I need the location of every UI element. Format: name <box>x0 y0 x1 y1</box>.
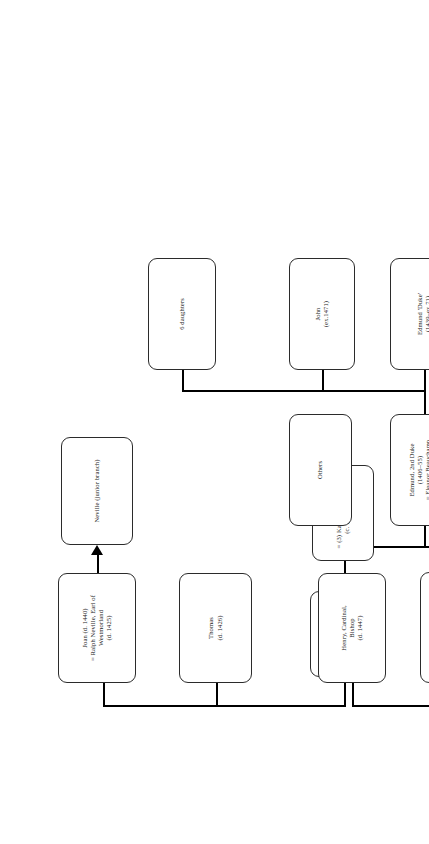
node-edmund-duke[interactable]: Edmund 'Duke' (1439–ex.71) <box>390 258 429 370</box>
connector-edmund2-spine <box>182 390 426 392</box>
connector-spine-lower <box>352 705 429 707</box>
node-thomas-label: Thomas (d. 1426) <box>207 577 223 679</box>
family-tree-diagram: = (3) Katherine Swynford (c. 1350–1403) … <box>0 0 429 844</box>
connector-to-thomas <box>216 683 218 707</box>
connector-to-henry-cardinal <box>352 683 354 707</box>
node-john-earl-of-somerset[interactable]: John, Earl of Somerset (d. 1410) = Marga… <box>420 572 429 683</box>
connector-joan-neville <box>97 555 99 573</box>
connector-children-spine-1 <box>103 705 346 707</box>
connector-edmund2-out <box>424 392 426 414</box>
arrow-neville <box>91 545 103 555</box>
connector-to-joan <box>103 683 105 707</box>
node-thomas[interactable]: Thomas (d. 1426) <box>179 573 252 683</box>
node-others-label: Others <box>316 418 324 522</box>
node-edmund-duke-label: Edmund 'Duke' (1439–ex.71) <box>416 262 429 366</box>
connector-to-john-ex1471 <box>322 370 324 392</box>
node-henry-cardinal-bishop[interactable]: Henry, Cardinal, Bishop (d. 1447) <box>318 573 386 683</box>
node-joan-neville[interactable]: Joan (d. 1440) = Ralph Neville, Earl of … <box>58 573 136 683</box>
node-henry-cardinal-bishop-label: Henry, Cardinal, Bishop (d. 1447) <box>340 577 364 679</box>
node-neville-junior-branch[interactable]: Neville (junior branch) <box>61 437 133 545</box>
node-john-ex-1471[interactable]: John (ex.1471) <box>289 258 355 370</box>
connector-to-edmund2 <box>424 526 426 548</box>
node-joan-neville-label: Joan (d. 1440) = Ralph Neville, Earl of … <box>81 577 113 679</box>
connector-to-6daughters <box>182 370 184 392</box>
node-others[interactable]: Others <box>289 414 352 526</box>
node-edmund-2nd-duke[interactable]: Edmund, 2nd Duke (1406–55) = Eleanor Bea… <box>390 414 429 526</box>
connector-to-edmund-duke <box>424 370 426 392</box>
node-edmund-2nd-duke-label: Edmund, 2nd Duke (1406–55) = Eleanor Bea… <box>408 418 429 522</box>
node-john-ex-1471-label: John (ex.1471) <box>314 262 330 366</box>
node-six-daughters-label: 6 daughters <box>178 262 186 366</box>
node-neville-junior-branch-label: Neville (junior branch) <box>93 441 101 541</box>
node-six-daughters[interactable]: 6 daughters <box>148 258 216 370</box>
